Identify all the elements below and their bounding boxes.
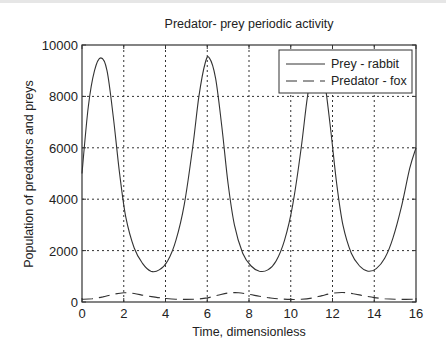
y-tick-label: 4000 [49,192,78,207]
y-tick-labels: 0200040006000800010000 [42,38,78,310]
chart-svg: Predator- prey periodic activity 0246810… [0,0,446,360]
x-tick-label: 2 [120,306,127,321]
legend-label-predator: Predator - fox [331,74,407,88]
x-tick-label: 0 [78,306,85,321]
x-tick-label: 12 [325,306,339,321]
legend-label-prey: Prey - rabbit [331,57,400,71]
y-tick-label: 6000 [49,141,78,156]
chart-title: Predator- prey periodic activity [165,17,335,31]
y-tick-label: 8000 [49,89,78,104]
x-tick-label: 10 [284,306,298,321]
x-axis-label: Time, dimensionless [192,325,305,339]
y-tick-label: 0 [71,295,78,310]
x-tick-label: 16 [409,306,423,321]
y-axis-label: Population of predators and preys [22,80,36,268]
x-tick-label: 6 [204,306,211,321]
x-tick-labels: 0246810121416 [78,306,423,321]
legend: Prey - rabbit Predator - fox [279,50,412,93]
y-tick-label: 2000 [49,244,78,259]
x-tick-label: 4 [162,306,169,321]
x-tick-label: 14 [367,306,381,321]
x-tick-label: 8 [245,306,252,321]
y-tick-label: 10000 [42,38,78,53]
